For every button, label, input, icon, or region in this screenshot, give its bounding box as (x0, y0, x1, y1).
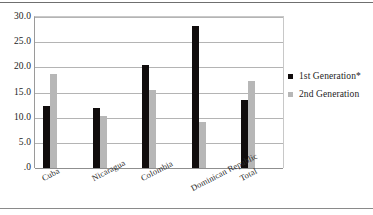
bar-group (43, 17, 57, 168)
x-axis-tick-label: Cuba (40, 166, 61, 183)
legend-label: 2nd Generation (299, 89, 359, 99)
legend-swatch-icon (288, 74, 293, 79)
bar-group (192, 17, 206, 168)
bar-series2 (100, 116, 107, 168)
chart-legend: 1st Generation*2nd Generation (288, 69, 373, 105)
y-axis-tick-label: 10.0 (0, 112, 31, 122)
x-axis-tick-labels: CubaNicaraguaColombiaDominican RepublicT… (0, 168, 373, 214)
y-axis-tick-label: 20.0 (0, 61, 31, 71)
y-axis-tick-label: 5.0 (0, 137, 31, 147)
bar-group (93, 17, 107, 168)
bar-series2 (199, 122, 206, 168)
legend-label: 1st Generation* (299, 71, 361, 81)
page-top-rule (0, 2, 373, 3)
y-axis: .05.010.015.020.025.030.0 (0, 16, 31, 167)
bar-chart-figure: .05.010.015.020.025.030.0 CubaNicaraguaC… (0, 0, 373, 215)
plot-area (34, 16, 284, 168)
bar-series1 (192, 26, 199, 168)
bar-series1 (93, 108, 100, 168)
y-axis-tick-label: 30.0 (0, 11, 31, 21)
bar-group (241, 17, 255, 168)
bar-group (142, 17, 156, 168)
y-axis-tick-label: 15.0 (0, 87, 31, 97)
bar-series1 (142, 65, 149, 168)
bar-series1 (43, 106, 50, 168)
bar-series2 (149, 90, 156, 168)
legend-item[interactable]: 2nd Generation (288, 87, 373, 101)
legend-swatch-icon (288, 92, 293, 97)
y-axis-tick-label: 25.0 (0, 36, 31, 46)
legend-item[interactable]: 1st Generation* (288, 69, 373, 83)
bar-series2 (50, 74, 57, 168)
